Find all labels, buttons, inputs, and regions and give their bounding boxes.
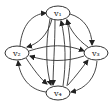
edge-v3-v2 <box>30 56 84 61</box>
directed-graph: v₁ v₂ v₃ v₄ <box>0 0 111 106</box>
edge-v2-v3 <box>29 46 84 51</box>
node-label-v2: v₂ <box>12 49 21 58</box>
node-v2: v₂ <box>5 46 29 60</box>
edge-v1-v4-b <box>53 20 55 85</box>
edge-v4-v2 <box>18 61 46 92</box>
edge-v4-v1 <box>61 21 65 86</box>
node-label-v3: v₃ <box>91 49 100 58</box>
node-v3: v₃ <box>84 46 108 60</box>
edge-v4-v3 <box>68 60 88 85</box>
edge-v1-v3 <box>70 14 92 45</box>
node-label-v1: v₁ <box>53 9 62 18</box>
node-label-v4: v₄ <box>53 89 62 98</box>
edge-v4-v1-b <box>67 20 70 86</box>
node-v4: v₄ <box>46 86 70 100</box>
edge-v2-v4 <box>26 58 47 84</box>
edge-v2-v1 <box>20 13 46 46</box>
node-v1: v₁ <box>46 6 70 20</box>
